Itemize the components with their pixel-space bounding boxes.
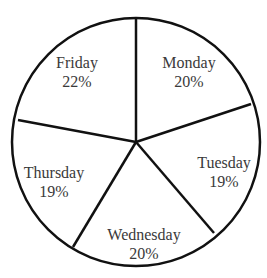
slice-value: 19% [209,173,238,190]
slice-value: 20% [129,245,158,262]
slice-value: 22% [62,73,91,90]
slice-name: Wednesday [107,226,180,244]
slice-name: Thursday [24,164,84,182]
slice-value: 19% [39,183,68,200]
slice-name: Monday [162,54,215,72]
slice-value: 20% [174,73,203,90]
slice-name: Friday [56,54,98,72]
slice-name: Tuesday [197,154,251,172]
pie-chart: Monday 20% Tuesday 19% Wednesday 20% Thu… [0,0,267,278]
